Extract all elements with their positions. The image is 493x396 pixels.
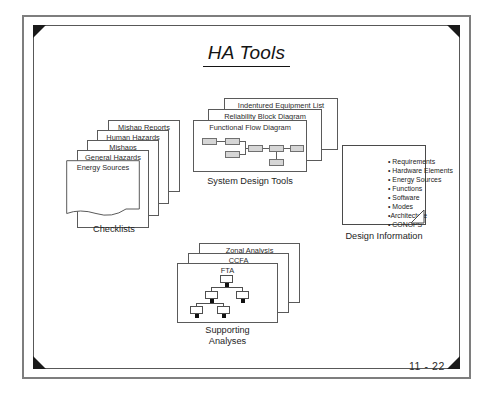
supporting-analyses-label-line1: Supporting	[177, 325, 278, 336]
fault-tree-marker	[241, 299, 245, 303]
system-design-tools-group: Indentured Equipment List Reliability Bl…	[193, 98, 338, 188]
design-information-group: • Requirements • Hardware Elements • Ene…	[342, 145, 442, 250]
flow-node	[225, 138, 240, 145]
fault-tree-node	[190, 306, 203, 314]
fault-tree-graphic	[177, 263, 278, 323]
fault-tree-node	[220, 275, 233, 283]
flow-node	[225, 151, 240, 158]
supporting-analyses-group-label: Supporting Analyses	[177, 325, 278, 346]
corner-marker-bottom-right	[447, 356, 460, 369]
flow-node	[202, 138, 217, 145]
design-information-item: • Energy Sources	[388, 175, 422, 184]
supporting-analyses-label-line2: Analyses	[177, 336, 278, 347]
functional-flow-diagram-graphic	[193, 120, 307, 172]
corner-marker-top-right	[447, 25, 460, 38]
fault-tree-connector	[196, 303, 223, 304]
slide-root: HA Tools Mishap Reports Human Hazards Mi…	[0, 0, 493, 396]
page-fold-icon	[410, 209, 425, 224]
flow-node	[248, 145, 263, 152]
supporting-analyses-group: Zonal Analysis CCFA FTA	[177, 243, 302, 338]
fault-tree-connector	[196, 303, 197, 306]
flow-connector	[263, 148, 269, 149]
fault-tree-node	[236, 291, 249, 299]
flow-node	[269, 145, 284, 152]
checklists-group-label: Checklists	[64, 224, 164, 235]
checklists-group: Mishap Reports Human Hazards Mishaps Gen…	[66, 120, 181, 240]
fault-tree-marker	[195, 314, 199, 318]
corner-marker-top-left	[33, 25, 46, 38]
design-information-item: • Requirements	[388, 157, 422, 166]
fault-tree-connector	[223, 303, 224, 306]
fault-tree-node	[217, 306, 230, 314]
fault-tree-node	[205, 291, 218, 299]
fault-tree-connector	[211, 287, 242, 288]
design-information-item: • Hardware Elements	[388, 166, 422, 175]
flow-connector	[217, 141, 225, 142]
page-number: 11 - 22	[409, 360, 445, 372]
flow-connector	[284, 148, 290, 149]
flow-connector	[245, 148, 248, 149]
fault-tree-connector	[242, 287, 243, 291]
design-information-item: • Software	[388, 193, 422, 202]
checklist-card-label: Energy Sources	[66, 163, 140, 172]
fault-tree-connector	[211, 287, 212, 291]
slide-title: HA Tools	[0, 42, 493, 67]
fault-tree-marker	[222, 314, 226, 318]
corner-marker-bottom-left	[33, 356, 46, 369]
checklist-card-energy-sources: Energy Sources	[66, 160, 140, 218]
slide-title-text: HA Tools	[203, 42, 290, 67]
flow-connector	[276, 152, 277, 159]
flow-node	[290, 145, 304, 152]
design-information-item: • Functions	[388, 184, 422, 193]
design-information-group-label: Design Information	[334, 231, 434, 242]
flow-node	[269, 159, 284, 166]
system-design-tools-group-label: System Design Tools	[192, 176, 308, 187]
